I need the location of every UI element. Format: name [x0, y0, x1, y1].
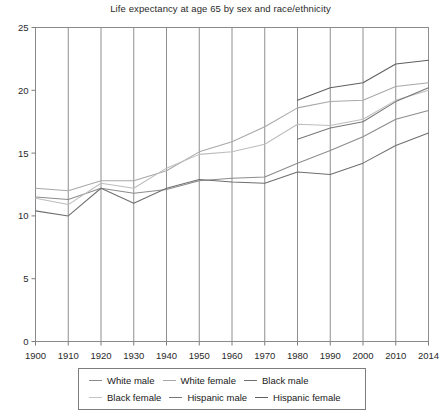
- line-chart-svg: 0510152025190019101920193019401950196019…: [0, 0, 441, 360]
- legend-item-label: Hispanic female: [273, 393, 341, 403]
- y-axis-tick-label: 25: [18, 22, 29, 33]
- legend-line-swatch-icon: [89, 380, 102, 381]
- x-axis-tick-label: 1910: [58, 350, 79, 361]
- chart-plot-area: 0510152025190019101920193019401950196019…: [0, 0, 441, 360]
- legend-item-hispanic-female[interactable]: Hispanic female: [255, 393, 341, 403]
- legend-line-swatch-icon: [244, 380, 257, 381]
- legend-item-black-female[interactable]: Black female: [89, 393, 161, 403]
- legend-row: White maleWhite femaleBlack male: [83, 372, 361, 389]
- x-axis-tick-label: 2010: [385, 350, 406, 361]
- x-axis-tick-label: 1950: [189, 350, 210, 361]
- legend-item-hispanic-male[interactable]: Hispanic male: [169, 393, 247, 403]
- legend-item-white-male[interactable]: White male: [89, 376, 155, 386]
- legend-item-label: White male: [107, 376, 155, 386]
- x-axis-tick-label: 1930: [123, 350, 144, 361]
- x-axis-tick-label: 1980: [287, 350, 308, 361]
- legend-item-black-male[interactable]: Black male: [244, 376, 308, 386]
- x-axis-tick-label: 2000: [352, 350, 373, 361]
- y-axis-tick-label: 0: [23, 336, 28, 347]
- y-axis-tick-label: 15: [18, 148, 29, 159]
- x-axis-tick-label: 1940: [156, 350, 177, 361]
- legend-item-label: Hispanic male: [187, 393, 247, 403]
- legend-line-swatch-icon: [169, 397, 182, 398]
- y-axis-tick-label: 5: [23, 273, 28, 284]
- legend-row: Black femaleHispanic maleHispanic female: [83, 389, 361, 406]
- legend-item-label: White female: [181, 376, 236, 386]
- x-axis-tick-label: 2014: [418, 350, 439, 361]
- y-axis-tick-label: 20: [18, 85, 29, 96]
- x-axis-tick-label: 1970: [254, 350, 275, 361]
- x-axis-tick-label: 1920: [90, 350, 111, 361]
- x-axis-tick-label: 1900: [25, 350, 46, 361]
- legend-item-label: Black female: [107, 393, 161, 403]
- legend-line-swatch-icon: [163, 380, 176, 381]
- legend-item-white-female[interactable]: White female: [163, 376, 236, 386]
- chart-legend: White maleWhite femaleBlack maleBlack fe…: [78, 368, 366, 410]
- legend-line-swatch-icon: [89, 397, 102, 398]
- legend-line-swatch-icon: [255, 397, 268, 398]
- y-axis-tick-label: 10: [18, 210, 29, 221]
- x-axis-tick-label: 1960: [221, 350, 242, 361]
- x-axis-tick-label: 1990: [320, 350, 341, 361]
- legend-item-label: Black male: [262, 376, 308, 386]
